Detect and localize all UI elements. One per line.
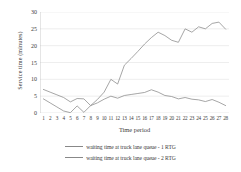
x-tick-label: 7 — [81, 114, 88, 124]
legend-item-label: waiting time at truck lane queue - 1 RTG — [86, 144, 176, 150]
x-tick-label: 14 — [128, 114, 135, 124]
x-tick-label: 25 — [202, 114, 209, 124]
x-tick-label: 5 — [67, 114, 74, 124]
x-axis-title: Time period — [40, 126, 229, 133]
x-tick-label: 22 — [182, 114, 189, 124]
x-tick-label: 17 — [148, 114, 155, 124]
y-tick-label: 30 — [23, 9, 37, 15]
y-tick-label: 5 — [23, 93, 37, 99]
x-tick-label: 10 — [101, 114, 108, 124]
series-line-1 — [43, 22, 225, 113]
x-tick-label: 27 — [216, 114, 223, 124]
x-tick-label: 19 — [162, 114, 169, 124]
legend-item-label: waiting time at truck lane queue - 2 RTG — [86, 155, 176, 161]
series-line-2 — [43, 89, 225, 105]
x-tick-label: 2 — [47, 114, 54, 124]
y-tick-label: 0 — [23, 110, 37, 116]
x-tick-label: 15 — [135, 114, 142, 124]
x-axis-tick-labels: 1234567891011121314151617181920212223242… — [40, 114, 229, 124]
x-tick-label: 28 — [222, 114, 229, 124]
y-tick-label: 10 — [23, 76, 37, 82]
y-tick-label: 20 — [23, 43, 37, 49]
y-tick-label: 25 — [23, 26, 37, 32]
x-tick-label: 16 — [141, 114, 148, 124]
x-tick-label: 11 — [108, 114, 115, 124]
y-tick-label: 15 — [23, 60, 37, 66]
legend-item-2[interactable]: waiting time at truck lane queue - 2 RTG — [0, 152, 241, 163]
x-tick-label: 8 — [87, 114, 94, 124]
chart-legend: waiting time at truck lane queue - 1 RTG… — [0, 141, 241, 163]
x-tick-label: 3 — [54, 114, 61, 124]
plot-svg — [40, 12, 229, 113]
y-axis-tick-labels: 302520151050 — [20, 12, 37, 113]
x-tick-label: 13 — [121, 114, 128, 124]
legend-item-1[interactable]: waiting time at truck lane queue - 1 RTG — [0, 141, 241, 152]
x-tick-label: 6 — [74, 114, 81, 124]
x-tick-label: 26 — [209, 114, 216, 124]
x-tick-label: 18 — [155, 114, 162, 124]
x-tick-label: 1 — [40, 114, 47, 124]
legend-line-swatch — [65, 146, 83, 147]
x-tick-label: 21 — [175, 114, 182, 124]
line-chart: Service time (minutes) 302520151050 1234… — [0, 0, 241, 172]
x-tick-label: 4 — [60, 114, 67, 124]
plot-area — [40, 12, 229, 113]
x-tick-label: 24 — [195, 114, 202, 124]
legend-line-swatch — [65, 157, 83, 158]
x-tick-label: 20 — [168, 114, 175, 124]
x-tick-label: 9 — [94, 114, 101, 124]
x-tick-label: 23 — [189, 114, 196, 124]
x-tick-label: 12 — [114, 114, 121, 124]
